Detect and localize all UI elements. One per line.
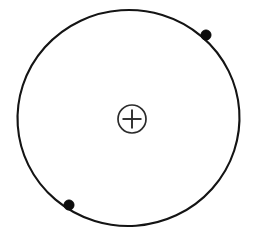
atom-diagram-figure — [0, 0, 266, 234]
nucleus-symbol — [118, 105, 146, 133]
electron-lower-left — [64, 200, 74, 210]
atom-diagram-canvas — [0, 0, 266, 234]
electron-upper-right — [201, 30, 211, 40]
